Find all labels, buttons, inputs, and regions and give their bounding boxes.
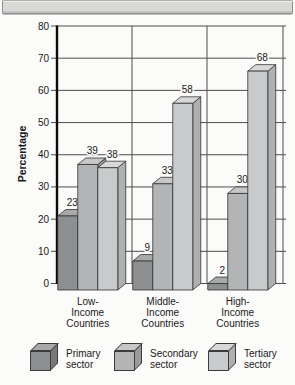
bar-front-face — [133, 261, 153, 290]
legend-label-line: Secondary — [150, 348, 198, 359]
bar-front-face — [228, 193, 248, 290]
legend-label: Secondary sector — [150, 343, 198, 370]
y-tick-label: 70 — [38, 53, 50, 64]
secondary-sector-cube-icon — [114, 343, 144, 372]
bar-value-label: 38 — [107, 149, 119, 160]
x-category-label: Countries — [216, 318, 259, 329]
x-category-label: Middle- — [146, 296, 179, 307]
bar-value-label: 68 — [257, 52, 269, 63]
primary-sector-cube-icon — [30, 343, 60, 372]
x-category-label: Income — [71, 307, 104, 318]
y-tick-label: 30 — [38, 181, 50, 192]
bar-value-label: 2 — [219, 265, 225, 276]
bar-front-face — [78, 164, 98, 290]
y-tick-label: 80 — [38, 21, 50, 32]
bar-value-label: 9 — [144, 242, 150, 253]
bar-chart: 01020304050607080Percentage233938Low-Inc… — [0, 0, 295, 340]
bar-front-face — [98, 168, 118, 290]
bar-side-face — [193, 97, 201, 290]
legend-item-tertiary-sector: Tertiary sector — [208, 343, 277, 372]
y-tick-label: 50 — [38, 117, 50, 128]
y-tick-label: 10 — [38, 246, 50, 257]
y-tick-label: 0 — [43, 278, 49, 289]
y-tick-label: 60 — [38, 85, 50, 96]
legend-label: Tertiary sector — [244, 343, 277, 370]
x-category-label: Countries — [141, 318, 184, 329]
x-category-label: Income — [221, 307, 254, 318]
y-axis-title: Percentage — [16, 126, 28, 183]
tertiary-sector-cube-icon — [208, 343, 238, 372]
bar-front-face — [173, 103, 193, 290]
legend-item-secondary-sector: Secondary sector — [114, 343, 198, 372]
figure-sector-employment-chart: 01020304050607080Percentage233938Low-Inc… — [0, 0, 295, 385]
bar-value-label: 33 — [162, 165, 174, 176]
bar-value-label: 39 — [87, 145, 99, 156]
x-category-label: High- — [226, 296, 250, 307]
legend-label-line: sector — [244, 359, 277, 370]
legend-label-line: Primary — [66, 348, 100, 359]
bar-value-label: 58 — [182, 84, 194, 95]
chart-legend: Primary sector Secondary sector Tertiary… — [0, 343, 295, 377]
bar-front-face — [153, 184, 173, 290]
bar-side-face — [118, 161, 126, 290]
x-category-label: Income — [146, 307, 179, 318]
legend-label-line: Tertiary — [244, 348, 277, 359]
legend-label-line: sector — [66, 359, 100, 370]
legend-label: Primary sector — [66, 343, 100, 370]
bar-front-face — [58, 216, 78, 290]
y-tick-label: 40 — [38, 149, 50, 160]
y-tick-label: 20 — [38, 214, 50, 225]
bar-value-label: 30 — [237, 174, 249, 185]
x-category-label: Low- — [77, 296, 99, 307]
legend-item-primary-sector: Primary sector — [30, 343, 100, 372]
bar-side-face — [268, 65, 276, 290]
legend-label-line: sector — [150, 359, 198, 370]
bar-value-label: 23 — [67, 197, 79, 208]
bar-front-face — [248, 71, 268, 290]
x-category-label: Countries — [66, 318, 109, 329]
bar-front-face — [208, 284, 228, 290]
